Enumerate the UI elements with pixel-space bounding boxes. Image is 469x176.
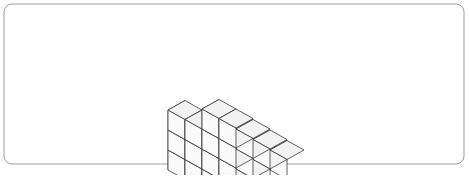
cube-group xyxy=(168,100,304,176)
figure-canvas xyxy=(0,0,469,175)
cube-stack-drawing xyxy=(0,0,469,175)
